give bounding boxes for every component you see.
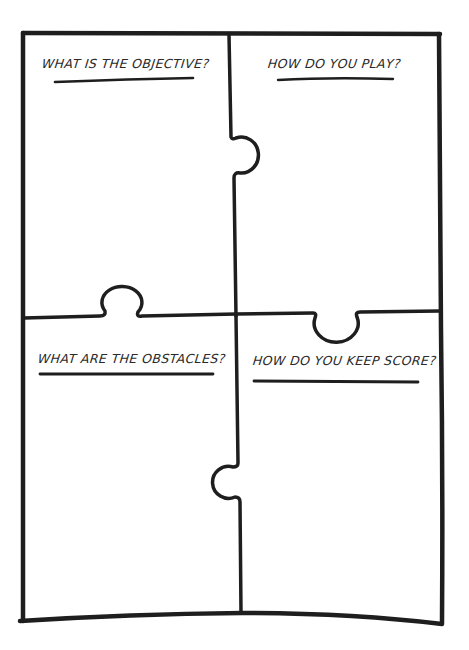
quadrant-objective: WHAT IS THE OBJECTIVE?: [25, 35, 230, 317]
prompt-objective: WHAT IS THE OBJECTIVE?: [41, 56, 210, 71]
frame-top-border: [23, 33, 440, 34]
prompt-obstacles: WHAT ARE THE OBSTACLES?: [37, 351, 226, 366]
quadrant-keep-score: HOW DO YOU KEEP SCORE?: [240, 315, 440, 613]
quadrant-how-to-play: HOW DO YOU PLAY?: [236, 35, 439, 313]
quadrant-obstacles: WHAT ARE THE OBSTACLES?: [25, 319, 237, 613]
prompt-how-to-play: HOW DO YOU PLAY?: [267, 56, 402, 71]
prompt-keep-score: HOW DO YOU KEEP SCORE?: [252, 353, 437, 368]
frame-bottom-border: [20, 613, 442, 624]
